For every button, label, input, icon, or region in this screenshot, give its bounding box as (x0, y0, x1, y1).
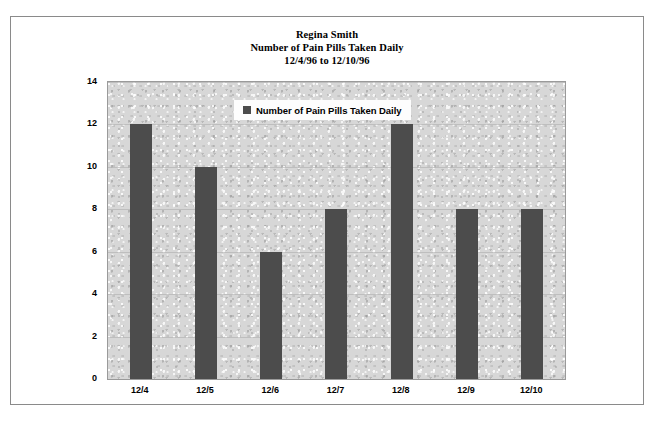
chart-legend: Number of Pain Pills Taken Daily (234, 100, 411, 120)
y-axis: 02468101214 (11, 81, 103, 380)
bar[interactable] (521, 209, 543, 379)
y-axis-tick-label: 2 (92, 331, 97, 341)
bar-slot (369, 82, 434, 379)
legend-swatch-icon (243, 106, 251, 114)
y-axis-tick-label: 8 (92, 203, 97, 213)
x-axis: 12/412/512/612/712/812/912/10 (107, 383, 566, 403)
bar-slot (500, 82, 565, 379)
x-axis-tick-label: 12/9 (433, 385, 498, 395)
bar-slot (239, 82, 304, 379)
plot-area (107, 81, 566, 380)
chart-title-block: Regina Smith Number of Pain Pills Taken … (11, 28, 643, 67)
bar[interactable] (260, 252, 282, 379)
y-axis-tick-label: 0 (92, 373, 97, 383)
y-axis-tick-label: 12 (87, 118, 97, 128)
bar-series (108, 82, 565, 379)
x-axis-tick-label: 12/8 (368, 385, 433, 395)
x-axis-tick-label: 12/10 (499, 385, 564, 395)
y-axis-tick-label: 4 (92, 288, 97, 298)
bar-slot (434, 82, 499, 379)
title-line-patient-name: Regina Smith (11, 28, 643, 41)
x-axis-tick-label: 12/6 (238, 385, 303, 395)
bar[interactable] (195, 167, 217, 379)
bar[interactable] (130, 124, 152, 379)
y-axis-tick-label: 10 (87, 161, 97, 171)
y-axis-tick-label: 14 (87, 76, 97, 86)
y-axis-tick-label: 6 (92, 246, 97, 256)
x-axis-tick-label: 12/5 (172, 385, 237, 395)
bar-slot (108, 82, 173, 379)
title-line-date-range: 12/4/96 to 12/10/96 (11, 54, 643, 67)
bar-slot (173, 82, 238, 379)
x-axis-tick-label: 12/4 (107, 385, 172, 395)
bar[interactable] (456, 209, 478, 379)
bar[interactable] (325, 209, 347, 379)
bar[interactable] (391, 124, 413, 379)
legend-label: Number of Pain Pills Taken Daily (256, 105, 402, 116)
x-axis-tick-label: 12/7 (303, 385, 368, 395)
bar-slot (304, 82, 369, 379)
chart-figure: Regina Smith Number of Pain Pills Taken … (10, 16, 644, 405)
title-line-chart-caption: Number of Pain Pills Taken Daily (11, 41, 643, 54)
